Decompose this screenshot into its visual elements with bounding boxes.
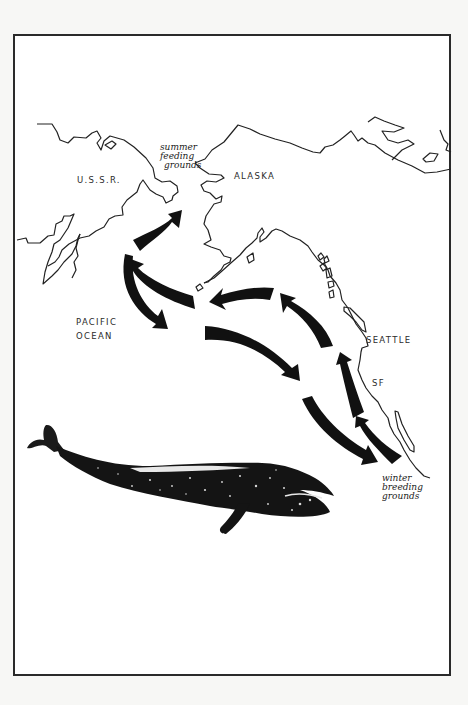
migration-map xyxy=(0,0,468,705)
ussr-north-coastline xyxy=(37,124,178,266)
label-alaska: ALASKA xyxy=(234,171,275,181)
arrow-seattle-northwest xyxy=(280,293,333,348)
arrow-gulf-west xyxy=(209,287,274,310)
ussr-bay-coastline xyxy=(105,141,116,149)
label-ocean: OCEAN xyxy=(76,331,113,341)
arrow-to-summer-grounds xyxy=(133,210,182,251)
label-summer-feeding-grounds: summer feeding grounds xyxy=(160,143,201,170)
arctic-islands-coastline xyxy=(368,117,414,160)
baja-california xyxy=(395,411,414,452)
alaska-north-coastline xyxy=(195,125,451,173)
alaska-peninsula-coastline xyxy=(204,228,330,283)
label-winter-breeding-grounds: winter breeding grounds xyxy=(382,474,423,501)
migration-arrows xyxy=(123,210,402,465)
gray-whale-illustration xyxy=(27,425,334,534)
label-pacific: PACIFIC xyxy=(76,317,117,327)
alexander-islands xyxy=(318,253,334,298)
label-ussr: U.S.S.R. xyxy=(77,175,121,185)
alaska-west-coastline xyxy=(195,163,231,283)
kamchatka-coastline xyxy=(17,214,80,284)
aleutian-island xyxy=(196,284,203,291)
winter-line-3: grounds xyxy=(382,492,423,501)
summer-line-3: grounds xyxy=(160,161,201,170)
kodiak-island xyxy=(247,253,254,263)
label-sf: SF xyxy=(372,378,385,388)
arrow-open-ocean-south xyxy=(205,326,300,381)
label-seattle: SEATTLE xyxy=(366,335,411,345)
arctic-island-east xyxy=(440,130,451,152)
arctic-island-small xyxy=(423,153,438,162)
vancouver-island xyxy=(344,307,366,332)
